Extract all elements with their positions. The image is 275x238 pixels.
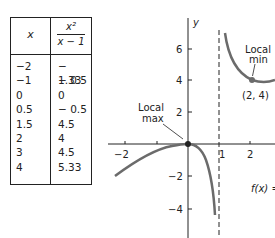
- x-tick-2: 2: [247, 149, 253, 160]
- local-max-label-line2: max: [142, 113, 164, 124]
- y-tick-6: 6: [176, 44, 182, 55]
- local-min-coords: (2, 4): [242, 90, 269, 101]
- y-tick-4: 4: [176, 75, 182, 86]
- local-min-pointer: [253, 64, 256, 76]
- curve-left-branch: [115, 144, 215, 215]
- function-graph: y 6 4 2 −2 −4 −2 1 2 Local max Local min…: [0, 0, 275, 238]
- local-min-label-line2: min: [249, 54, 268, 65]
- local-max-pointer: [163, 124, 183, 139]
- function-label: f(x) =: [251, 183, 275, 194]
- x-tick-1: 1: [219, 149, 225, 160]
- local-min-point: [249, 77, 255, 83]
- y-tick-2: 2: [176, 107, 182, 118]
- local-max-point: [185, 141, 191, 147]
- y-axis-label: y: [192, 17, 200, 28]
- y-tick-neg4: −4: [168, 204, 183, 215]
- x-tick-neg2: −2: [114, 149, 129, 160]
- local-max-label-line1: Local: [138, 102, 164, 113]
- y-tick-neg2: −2: [168, 171, 183, 182]
- y-ticks: [188, 49, 192, 209]
